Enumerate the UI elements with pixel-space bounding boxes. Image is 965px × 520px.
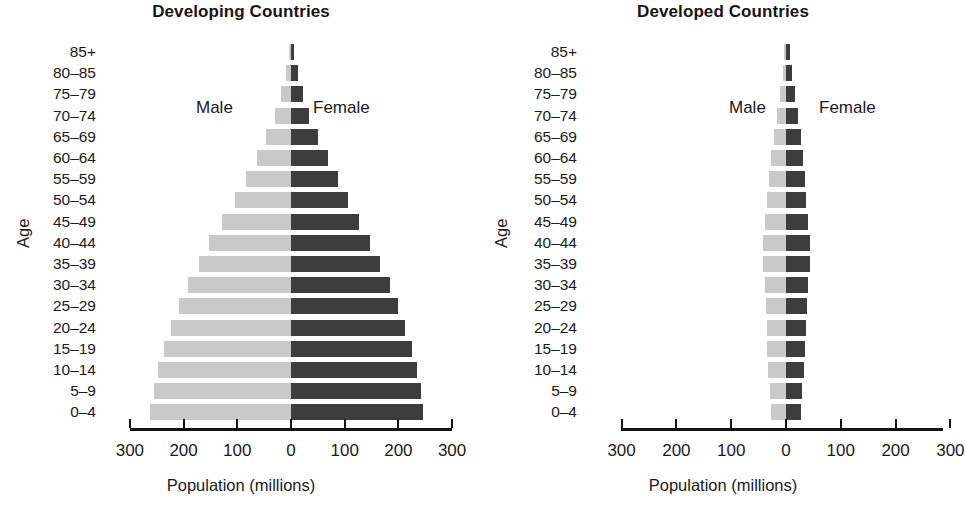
bar-female <box>786 277 808 293</box>
bar-male <box>281 86 291 102</box>
bar-female <box>291 256 380 272</box>
row-separator <box>586 187 965 192</box>
bar-female <box>291 320 405 336</box>
bar-male <box>150 404 291 420</box>
bar-male <box>164 341 291 357</box>
x-tick-label: 300 <box>438 441 466 461</box>
bar-female <box>786 86 795 102</box>
row-separator <box>91 60 491 65</box>
row-separator <box>91 124 491 129</box>
x-tick-label: 200 <box>881 441 909 461</box>
x-axis-tick <box>785 419 787 428</box>
bar-female <box>786 44 790 60</box>
x-axis-title-developed: Population (millions) <box>482 476 964 495</box>
bar-male <box>777 108 786 124</box>
bar-male <box>222 214 291 230</box>
bar-female <box>786 129 801 145</box>
bar-male <box>257 150 291 166</box>
row-separator <box>91 293 491 298</box>
x-axis-tick <box>840 419 842 428</box>
bar-male <box>765 214 786 230</box>
plot-area-developed <box>482 0 964 440</box>
x-tick-label: 300 <box>116 441 144 461</box>
bar-female <box>786 108 798 124</box>
row-separator <box>91 187 491 192</box>
row-separator <box>91 399 491 404</box>
bar-male <box>765 277 786 293</box>
bar-female <box>786 65 792 81</box>
row-separator <box>586 272 965 277</box>
row-separator <box>91 251 491 256</box>
bar-male <box>209 235 291 251</box>
row-separator <box>91 336 491 341</box>
bar-male <box>767 341 786 357</box>
bar-female <box>291 108 309 124</box>
bar-female <box>291 192 348 208</box>
legend-male-developed: Male <box>729 98 766 118</box>
bar-female <box>291 404 423 420</box>
bar-male <box>767 320 786 336</box>
bar-female <box>786 256 810 272</box>
row-separator <box>586 399 965 404</box>
bar-female <box>291 277 390 293</box>
bar-female <box>291 44 294 60</box>
bar-female <box>291 65 298 81</box>
row-separator <box>586 102 965 107</box>
x-tick-label: 100 <box>827 441 855 461</box>
row-separator <box>91 378 491 383</box>
row-separator <box>586 145 965 150</box>
row-separator <box>586 230 965 235</box>
row-separator <box>91 102 491 107</box>
legend-female-developed: Female <box>819 98 876 118</box>
bar-male <box>767 192 786 208</box>
row-separator <box>91 314 491 319</box>
x-tick-label: 200 <box>169 441 197 461</box>
x-axis-tick <box>949 419 951 428</box>
x-tick-label: 0 <box>781 441 790 461</box>
row-separator <box>586 293 965 298</box>
x-tick-label: 300 <box>936 441 964 461</box>
x-axis-tick <box>730 419 732 428</box>
x-axis-line <box>130 428 452 431</box>
bar-male <box>154 383 291 399</box>
bar-male <box>158 362 291 378</box>
x-tick-label: 100 <box>717 441 745 461</box>
bar-male <box>179 298 291 314</box>
x-tick-label: 300 <box>607 441 635 461</box>
bar-male <box>763 235 786 251</box>
row-separator <box>586 378 965 383</box>
row-separator <box>91 208 491 213</box>
x-tick-labels-developed: 3002001000100200300 <box>482 441 964 465</box>
x-axis-tick <box>675 419 677 428</box>
x-axis-title-developing: Population (millions) <box>0 476 482 495</box>
bar-male <box>171 320 291 336</box>
bar-female <box>786 298 807 314</box>
bar-male <box>188 277 291 293</box>
x-tick-label: 100 <box>223 441 251 461</box>
bar-female <box>786 341 805 357</box>
x-axis-line <box>621 428 943 431</box>
bar-male <box>275 108 291 124</box>
bar-female <box>291 129 318 145</box>
x-axis-tick <box>236 419 238 428</box>
bar-female <box>291 171 338 187</box>
population-pyramid-figure: Developing Countries Age 85+80–8575–7970… <box>0 0 965 520</box>
bar-female <box>291 341 412 357</box>
legend-male-developing: Male <box>196 98 233 118</box>
row-separator <box>586 81 965 86</box>
plot-area-developing <box>0 0 482 440</box>
row-separator <box>91 357 491 362</box>
bar-female <box>786 362 804 378</box>
x-axis-tick <box>183 419 185 428</box>
bar-male <box>266 129 291 145</box>
bar-male <box>771 150 786 166</box>
row-separator <box>91 145 491 150</box>
x-axis-tick <box>397 419 399 428</box>
row-separator <box>91 81 491 86</box>
row-separator <box>586 251 965 256</box>
bar-female <box>786 150 803 166</box>
bar-male <box>769 171 786 187</box>
bar-female <box>291 214 359 230</box>
bar-female <box>786 214 808 230</box>
row-separator <box>91 166 491 171</box>
